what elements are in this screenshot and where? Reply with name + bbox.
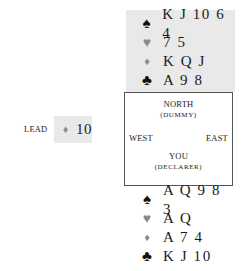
south-hearts-cards: A Q (163, 209, 192, 228)
south-diamonds-cards: A 7 4 (163, 228, 204, 247)
north-clubs-row: ♣ A 9 8 (126, 71, 204, 90)
club-icon: ♣ (140, 71, 154, 90)
diamond-icon: ♦ (140, 52, 154, 71)
south-label: YOU (169, 151, 188, 161)
south-sublabel: (DECLARER) (125, 163, 232, 171)
south-spades-row: ♠ A Q 9 8 3 (126, 190, 235, 209)
lead-card-rank: 10 (76, 120, 92, 139)
north-hand: ♠ K J 10 6 4 ♥ 7 5 ♦ K Q J ♣ A 9 8 (126, 10, 235, 92)
north-clubs-cards: A 9 8 (163, 71, 204, 90)
club-icon: ♣ (140, 247, 154, 266)
north-diamonds-cards: K Q J (163, 52, 206, 71)
spade-icon: ♠ (140, 14, 153, 33)
south-clubs-row: ♣ K J 10 (126, 247, 212, 266)
north-diamonds-row: ♦ K Q J (126, 52, 206, 71)
table-compass: NORTH (DUMMY) WEST EAST YOU (DECLARER) (124, 92, 233, 186)
south-hand: ♠ A Q 9 8 3 ♥ A Q ♦ A 7 4 ♣ K J 10 (126, 190, 235, 270)
heart-icon: ♥ (140, 33, 154, 52)
west-label: WEST (129, 133, 153, 143)
south-clubs-cards: K J 10 (163, 247, 212, 266)
north-sublabel: (DUMMY) (125, 111, 232, 119)
diamond-icon: ♦ (61, 120, 70, 139)
heart-icon: ♥ (140, 209, 154, 228)
east-label: EAST (206, 133, 228, 143)
north-label: NORTH (164, 99, 194, 109)
north-hearts-cards: 7 5 (163, 33, 187, 52)
north-hearts-row: ♥ 7 5 (126, 33, 187, 52)
south-diamonds-row: ♦ A 7 4 (126, 228, 204, 247)
north-position-label: NORTH (DUMMY) (125, 99, 232, 119)
south-position-label: YOU (DECLARER) (125, 151, 232, 171)
lead-label: LEAD (24, 124, 47, 134)
lead-card: ♦ 10 (54, 116, 92, 143)
north-spades-row: ♠ K J 10 6 4 (126, 14, 235, 33)
south-hearts-row: ♥ A Q (126, 209, 192, 228)
diamond-icon: ♦ (140, 228, 154, 247)
spade-icon: ♠ (140, 190, 154, 209)
